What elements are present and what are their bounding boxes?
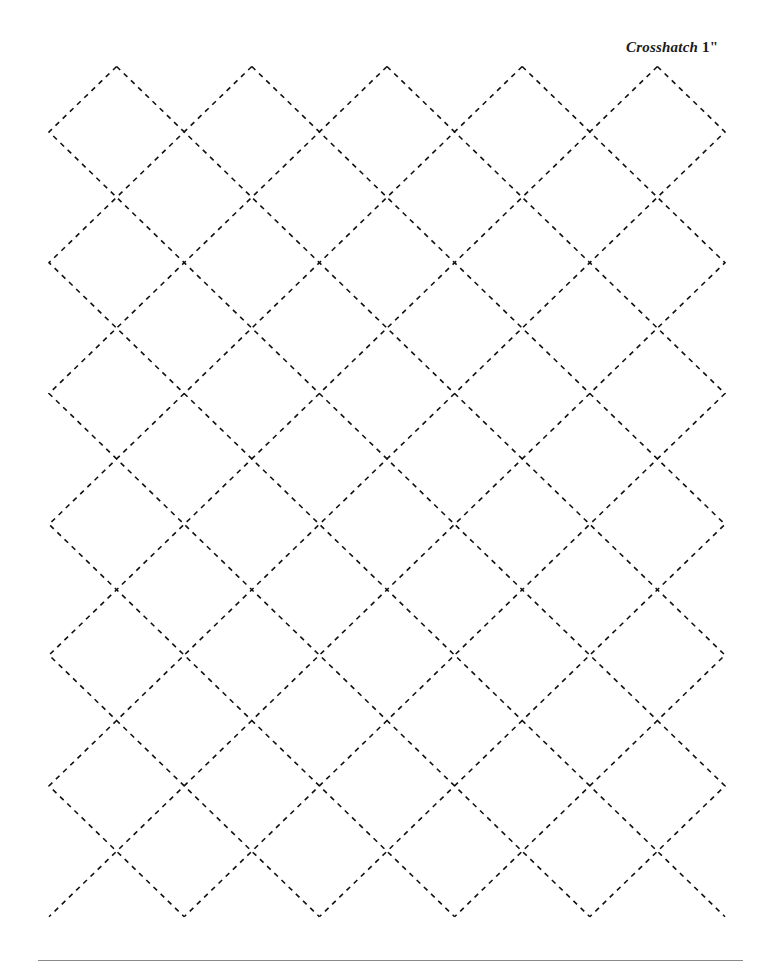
crosshatch-line bbox=[49, 67, 590, 917]
footer-rule bbox=[38, 960, 743, 961]
crosshatch-line bbox=[184, 67, 725, 917]
crosshatch-pattern bbox=[0, 0, 773, 975]
